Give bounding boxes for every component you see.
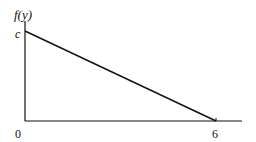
y-axis-label: f(y) (14, 8, 32, 21)
x-tick-6-label: 6 (212, 128, 218, 140)
density-line (25, 31, 216, 121)
y-tick-c: c (15, 28, 20, 40)
chart-canvas (0, 0, 256, 142)
x-tick-0: 0 (15, 128, 21, 140)
